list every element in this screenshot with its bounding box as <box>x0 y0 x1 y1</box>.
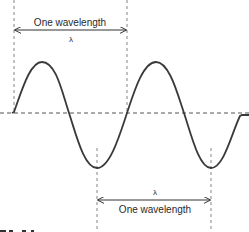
bottom-wavelength-label: One wavelength <box>119 204 191 215</box>
top-wavelength-label: One wavelength <box>34 17 106 28</box>
wavelength-diagram: One wavelength λ λ One wavelength <box>0 0 249 232</box>
cut-off-caption <box>0 230 34 232</box>
bottom-lambda-symbol: λ <box>153 188 157 197</box>
top-lambda-symbol: λ <box>69 35 73 44</box>
sine-wave <box>12 62 249 168</box>
diagram-svg: One wavelength λ λ One wavelength <box>0 0 249 232</box>
